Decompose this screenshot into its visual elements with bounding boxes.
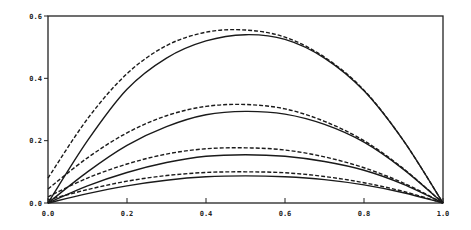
line-chart: 0.00.20.40.60.81.0 0.00.20.40.6 — [0, 0, 471, 230]
y-tick-label: 0.4 — [29, 75, 42, 83]
series-solid-1 — [48, 35, 443, 203]
x-tick-label: 0.2 — [121, 210, 134, 218]
y-tick-label: 0.6 — [29, 13, 42, 21]
x-tick-label: 0.0 — [42, 210, 55, 218]
series-solid-3 — [48, 155, 443, 203]
series-solid-4 — [48, 176, 443, 203]
x-tick-label: 1.0 — [437, 210, 450, 218]
x-tick-label: 0.6 — [279, 210, 292, 218]
x-tick-label: 0.8 — [358, 210, 371, 218]
plot-frame — [48, 16, 443, 203]
series-layer — [48, 30, 443, 203]
x-tick-label: 0.4 — [200, 210, 213, 218]
y-tick-label: 0.0 — [29, 200, 42, 208]
y-axis: 0.00.20.40.6 — [29, 13, 48, 208]
y-tick-label: 0.2 — [29, 137, 42, 145]
x-axis: 0.00.20.40.60.81.0 — [42, 198, 450, 218]
